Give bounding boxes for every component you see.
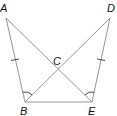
label-E: E	[88, 105, 96, 116]
angle-arc-E	[85, 92, 94, 95]
label-D: D	[107, 2, 115, 14]
geometry-diagram: A D B E C	[0, 0, 117, 116]
angle-arc-B	[23, 92, 32, 95]
segment-BD	[25, 18, 110, 102]
label-C: C	[53, 55, 61, 67]
label-A: A	[0, 2, 7, 14]
segment-AE	[6, 18, 92, 102]
label-B: B	[20, 105, 27, 116]
